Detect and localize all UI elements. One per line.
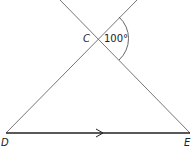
line-through-c-to-d [6, 0, 137, 133]
geometry-diagram: C 100° D E [0, 0, 192, 148]
label-d: D [1, 137, 9, 148]
label-e: E [184, 137, 191, 148]
label-c: C [83, 33, 90, 44]
angle-label: 100° [104, 33, 128, 44]
line-through-c-to-e [60, 0, 190, 133]
